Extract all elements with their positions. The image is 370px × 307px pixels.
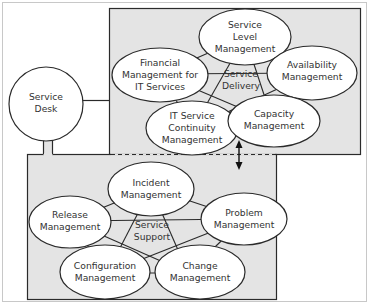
svg-text:Capacity: Capacity [254,108,295,119]
svg-text:Management: Management [282,71,343,82]
svg-text:Service: Service [135,219,169,230]
svg-text:Management: Management [40,221,101,232]
node-financial-management[interactable]: Financial Management for IT Services [112,48,208,102]
svg-text:Continuity: Continuity [168,122,216,133]
svg-text:Financial: Financial [140,57,180,68]
node-release-management[interactable]: Release Management [29,196,111,248]
node-availability-management[interactable]: Availability Management [267,46,357,100]
svg-text:Service: Service [228,19,262,30]
svg-text:Management: Management [170,272,231,283]
service-desk-label-2: Desk [35,103,59,114]
svg-text:Release: Release [52,209,88,220]
service-desk-node[interactable]: Service Desk [9,67,83,141]
svg-text:Level: Level [233,31,257,42]
svg-text:Service: Service [224,68,258,79]
svg-text:Change: Change [182,260,218,271]
node-configuration-management[interactable]: Configuration Management [60,245,150,299]
svg-text:Management for: Management for [122,69,198,80]
service-support-center-label: Service Support [134,219,171,242]
svg-text:Management: Management [244,120,305,131]
service-desk-label-1: Service [29,91,63,102]
svg-text:Management: Management [215,43,276,54]
node-capacity-management[interactable]: Capacity Management [228,95,320,147]
svg-text:Management: Management [214,219,275,230]
node-problem-management[interactable]: Problem Management [201,193,287,245]
node-incident-management[interactable]: Incident Management [108,162,194,216]
svg-text:IT Services: IT Services [135,81,185,92]
svg-text:Delivery: Delivery [222,80,261,91]
svg-text:Management: Management [121,189,182,200]
svg-text:Management: Management [75,272,136,283]
svg-text:Availability: Availability [287,59,338,70]
node-change-management[interactable]: Change Management [155,245,245,299]
service-delivery-center-label: Service Delivery [218,68,264,92]
svg-text:Management: Management [162,134,223,145]
itil-diagram: Service Desk Service [0,0,370,307]
node-it-service-continuity-management[interactable]: IT Service Continuity Management [146,101,238,155]
svg-text:IT Service: IT Service [169,110,215,121]
svg-text:Support: Support [134,231,171,242]
svg-text:Problem: Problem [225,207,263,218]
svg-text:Configuration: Configuration [74,260,136,271]
svg-text:Incident: Incident [132,177,169,188]
